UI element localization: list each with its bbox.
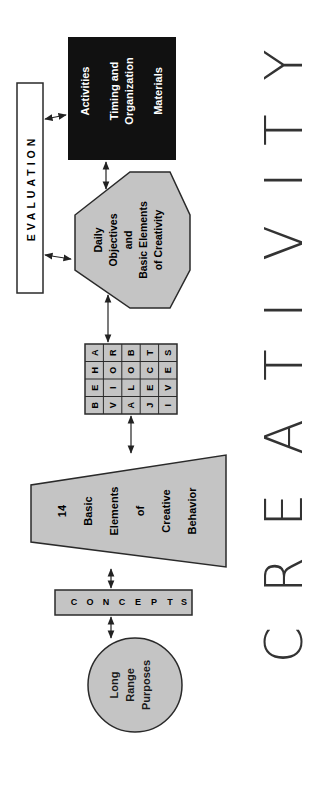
concepts-letter: S	[181, 597, 187, 607]
grid-cell: A	[126, 402, 136, 409]
elements-line-5: Creative	[160, 489, 172, 532]
daily-objectives-node: Daily Objectives and Basic Elements of C…	[75, 172, 190, 308]
long-range-line-3: Purposes	[140, 660, 152, 710]
creativity-diagram: Long Range Purposes C O N C E P T S 14 B…	[0, 0, 322, 785]
evaluation-node: EVALUATION	[17, 83, 43, 293]
grid-cell: B	[126, 349, 136, 356]
concepts-letter: P	[151, 597, 157, 607]
title-letter: T	[254, 349, 314, 381]
elements-line-6: Behavior	[186, 487, 198, 535]
title-letter: I	[254, 172, 314, 187]
daily-line-1: Daily	[92, 227, 104, 252]
basic-elements-node: 14 Basic Elements of Creative Behavior	[31, 455, 226, 567]
elements-line-2: Basic	[82, 496, 94, 525]
grid-cell: O	[108, 367, 118, 374]
elements-line-3: Elements	[108, 487, 120, 536]
title-letter: I	[254, 302, 314, 317]
activities-node: Activities Timing and Organization Mater…	[68, 37, 176, 160]
title-letter: T	[254, 114, 314, 146]
grid-cell: E	[145, 385, 155, 391]
grid-cell: B	[90, 402, 100, 409]
grid-cell: L	[126, 385, 136, 391]
creativity-title: C R E A T I V I T Y	[254, 49, 314, 663]
concepts-letter: T	[167, 597, 173, 607]
grid-cell: A	[90, 349, 100, 356]
grid-cell: T	[145, 350, 155, 356]
grid-cell: V	[163, 385, 173, 391]
activities-line-2: Timing and	[108, 62, 120, 120]
elements-line-1: 14	[56, 504, 68, 517]
evaluation-label: EVALUATION	[25, 135, 37, 242]
concepts-letter: O	[86, 597, 93, 607]
elements-line-4: of	[134, 505, 146, 516]
grid-cell: E	[90, 385, 100, 391]
title-letter: V	[254, 225, 314, 261]
title-letter: Y	[254, 49, 314, 81]
daily-line-2: Objectives	[107, 213, 119, 266]
grid-cell: C	[145, 367, 155, 374]
title-letter: A	[254, 419, 314, 455]
title-letter: C	[254, 627, 314, 663]
arrow-evaluation-daily	[45, 255, 71, 259]
long-range-line-2: Range	[124, 668, 136, 702]
grid-cell: V	[108, 402, 118, 408]
diagram-stage: Long Range Purposes C O N C E P T S 14 B…	[0, 0, 322, 785]
long-range-purposes-node: Long Range Purposes	[88, 638, 182, 732]
behavioral-objectives-grid: B E H A V I O R A L O B J E C T I V E S	[85, 344, 177, 414]
concepts-letter: E	[135, 597, 141, 607]
long-range-line-1: Long	[108, 672, 120, 699]
grid-cell: O	[126, 367, 136, 374]
concepts-letter: N	[103, 597, 110, 607]
daily-line-5: of Creativity	[152, 210, 164, 271]
daily-line-4: Basic Elements	[137, 201, 149, 279]
grid-cell: I	[108, 386, 118, 389]
concepts-node: C O N C E P T S	[55, 590, 192, 615]
concepts-letter: C	[119, 597, 126, 607]
daily-line-3: and	[122, 231, 134, 250]
grid-cell: R	[108, 349, 118, 356]
grid-cell: S	[163, 350, 173, 356]
activities-line-4: Materials	[152, 67, 164, 115]
title-letter: E	[254, 494, 314, 527]
activities-line-1: Activities	[79, 67, 91, 116]
activities-line-3: Organization	[123, 57, 135, 125]
grid-cell: J	[145, 403, 155, 408]
arrow-evaluation-activities	[45, 115, 66, 119]
title-letter: R	[254, 557, 314, 593]
concepts-letter: C	[71, 597, 78, 607]
grid-cell: H	[90, 367, 100, 374]
grid-cell: E	[163, 367, 173, 373]
grid-cell: I	[163, 404, 173, 407]
